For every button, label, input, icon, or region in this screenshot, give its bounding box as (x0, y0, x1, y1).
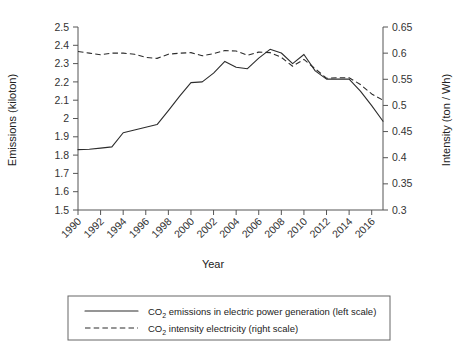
right-tick-label: 0.35 (392, 177, 413, 189)
x-tick-label: 2014 (330, 215, 355, 240)
series-co2-emissions-line (78, 49, 383, 149)
legend-label-intensity: CO2 intensity electricity (right scale) (148, 323, 298, 336)
x-tick-label: 2006 (239, 215, 264, 240)
x-tick-label: 1990 (58, 215, 83, 240)
right-tick-label: 0.4 (392, 151, 407, 163)
legend-label-emissions: CO2 emissions in electric power generati… (148, 306, 376, 319)
x-tick-label: 2000 (171, 215, 196, 240)
right-tick-label: 0.45 (392, 125, 413, 137)
x-tick-label: 2012 (307, 215, 332, 240)
x-tick-label: 2010 (284, 215, 309, 240)
right-axis-ticks: 0.650.60.550.50.450.40.350.3 (383, 21, 413, 216)
left-tick-label: 2.1 (54, 94, 69, 106)
left-tick-label: 1.9 (54, 130, 69, 142)
x-tick-label: 2004 (217, 215, 242, 240)
left-tick-label: 1.8 (54, 149, 69, 161)
right-axis-title: Intensity (ton / Wh) (440, 74, 452, 166)
right-tick-label: 0.65 (392, 21, 413, 33)
x-tick-label: 2008 (262, 215, 287, 240)
left-axis-ticks: 2.52.42.32.22.121.91.81.71.61.5 (54, 21, 78, 216)
right-tick-label: 0.5 (392, 99, 407, 111)
left-tick-label: 1.7 (54, 167, 69, 179)
right-tick-label: 0.3 (392, 204, 407, 216)
left-tick-label: 2.2 (54, 76, 69, 88)
right-tick-label: 0.6 (392, 47, 407, 59)
x-tick-label: 1998 (149, 215, 174, 240)
bottom-axis-title: Year (202, 258, 225, 270)
left-axis-title: Emissions (kiloton) (6, 74, 18, 166)
x-tick-label: 2002 (194, 215, 219, 240)
right-tick-label: 0.55 (392, 73, 413, 85)
chart-legend: CO2 emissions in electric power generati… (68, 296, 390, 340)
x-tick-label: 1996 (126, 215, 151, 240)
co2-emissions-intensity-line-chart: 2.52.42.32.22.121.91.81.71.61.5 0.650.60… (0, 0, 463, 355)
x-tick-label: 1994 (104, 215, 129, 240)
series-co2-intensity-line (78, 51, 383, 101)
left-tick-label: 1.5 (54, 204, 69, 216)
x-tick-label: 2016 (352, 215, 377, 240)
x-tick-label: 1992 (81, 215, 106, 240)
chart-figure: 2.52.42.32.22.121.91.81.71.61.5 0.650.60… (0, 0, 463, 355)
left-tick-label: 2.4 (54, 39, 69, 51)
bottom-axis-ticks: 1990199219941996199820002002200420062008… (58, 210, 377, 240)
left-tick-label: 2.3 (54, 57, 69, 69)
left-tick-label: 1.6 (54, 185, 69, 197)
left-tick-label: 2 (63, 112, 69, 124)
left-tick-label: 2.5 (54, 21, 69, 33)
